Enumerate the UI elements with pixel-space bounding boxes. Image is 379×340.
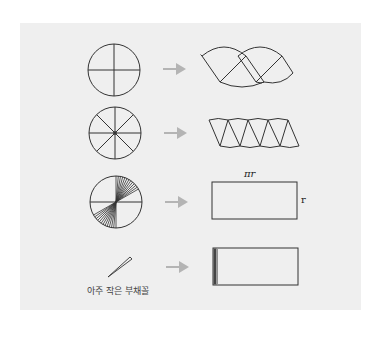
height-label: r bbox=[301, 194, 306, 205]
rearranged-8-sectors bbox=[209, 119, 299, 148]
width-label: πr bbox=[244, 168, 255, 179]
arrow-icon bbox=[164, 127, 187, 139]
rearranged-4-sectors bbox=[201, 47, 293, 87]
result-rectangle bbox=[212, 182, 297, 219]
circle-area-diagram bbox=[0, 0, 379, 340]
small-sector bbox=[108, 257, 132, 277]
circle-8-sectors bbox=[89, 107, 141, 159]
arrow-icon bbox=[166, 261, 189, 273]
arrow-icon bbox=[163, 63, 186, 75]
circle-4-sectors bbox=[88, 44, 140, 96]
arrow-icon bbox=[165, 196, 188, 208]
rectangle-of-small-sectors bbox=[213, 248, 298, 285]
circle-many-sectors bbox=[90, 176, 142, 228]
small-sector-caption: 아주 작은 부채꼴 bbox=[78, 284, 158, 297]
